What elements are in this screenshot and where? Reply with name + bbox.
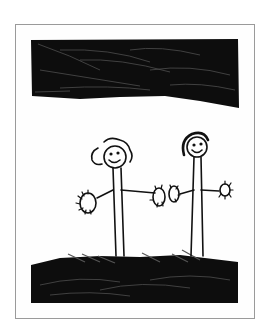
figure-left <box>76 138 155 256</box>
figure-left-hair-top <box>104 138 132 162</box>
figure-right-head <box>187 137 207 157</box>
figure-left-smile <box>109 160 120 163</box>
figure-right-leg-2 <box>201 157 203 256</box>
figure-left-leg-2 <box>121 168 124 256</box>
figure-right-smile <box>192 150 202 153</box>
drawing <box>0 0 265 326</box>
figure-left-head <box>104 146 126 168</box>
sky-scribble <box>31 39 239 108</box>
figure-right-arm-left <box>180 190 194 194</box>
figure-left-arm-right <box>121 190 155 193</box>
figure-right-arm-right <box>201 190 219 191</box>
figure-left-leg-1 <box>113 168 116 256</box>
figure-right-leg-1 <box>191 157 194 256</box>
figure-left-hair-left <box>92 148 102 165</box>
ground-scribble <box>31 250 238 303</box>
figure-left-arm-left <box>97 190 113 198</box>
figure-right <box>180 133 233 256</box>
figure-left-hand-left <box>80 193 96 213</box>
joined-hands <box>150 185 180 207</box>
